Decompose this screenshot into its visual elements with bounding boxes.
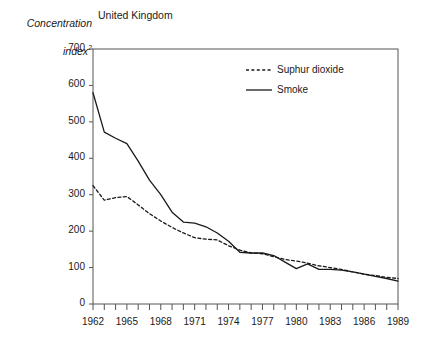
concentration-index-line-chart: Concentration index2 United Kingdom 0100… (0, 0, 421, 343)
y-axis-tick-label: 700 (40, 42, 85, 53)
series-line-smoke (93, 93, 398, 281)
y-axis-tick-label: 100 (40, 261, 85, 272)
y-axis-tick-label: 600 (40, 78, 85, 89)
x-axis-tick-label: 1989 (373, 316, 421, 327)
y-axis-tick-label: 0 (40, 297, 85, 308)
y-axis-tick-label: 200 (40, 224, 85, 235)
y-axis-tick-label: 400 (40, 151, 85, 162)
y-axis-tick-label: 500 (40, 115, 85, 126)
legend-label-smoke: Smoke (277, 84, 308, 95)
y-axis-tick-label: 300 (40, 188, 85, 199)
axis-frame (93, 49, 398, 304)
legend-label-suphur-dioxide: Suphur dioxide (277, 64, 344, 75)
series-line-suphur-dioxide (93, 186, 398, 279)
